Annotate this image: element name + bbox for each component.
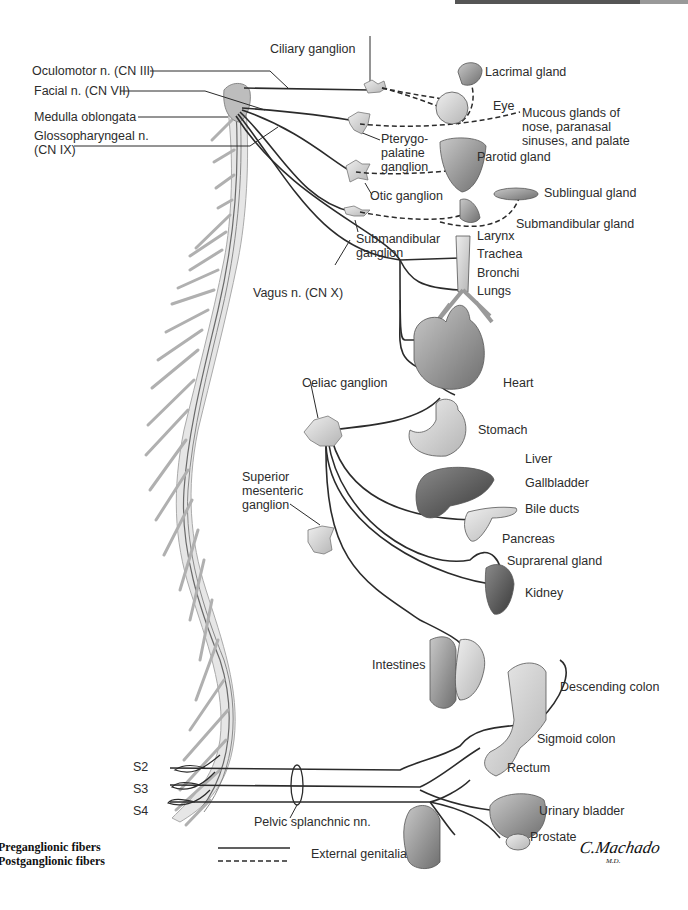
label-superior-mesenteric-ganglion: Superior mesenteric ganglion [242,470,303,512]
kidney-icon [485,565,514,615]
label-trachea: Trachea [477,247,522,261]
stomach-icon [409,399,466,456]
submandibular-gland-icon [460,199,480,222]
celiac-ganglion-icon [304,416,342,446]
label-eye: Eye [493,99,515,113]
label-larynx: Larynx [477,229,515,243]
label-vagus-nerve: Vagus n. (CN X) [253,286,343,300]
label-sigmoid-colon: Sigmoid colon [537,732,616,746]
lacrimal-gland-icon [458,63,482,86]
label-bronchi: Bronchi [477,266,519,280]
ciliary-ganglion-icon [364,80,386,93]
label-suprarenal-gland: Suprarenal gland [507,554,602,568]
label-submandibular-gland: Submandibular gland [516,217,634,231]
label-stomach: Stomach [478,423,527,437]
pterygopalatine-ganglion-icon [348,112,370,134]
label-kidney: Kidney [525,586,563,600]
colon-icon [485,663,546,776]
spinal-cord [172,93,248,822]
label-prostate: Prostate [530,830,577,844]
label-s2: S2 [133,760,148,774]
superior-mesenteric-ganglion-icon [308,526,334,554]
label-medulla-oblongata: Medulla oblongata [34,110,136,124]
legend-postganglionic: Postganglionic fibers [0,855,105,868]
prostate-icon [506,834,530,850]
label-s4: S4 [133,804,148,818]
sublingual-gland-icon [494,188,538,200]
label-lungs: Lungs [477,284,511,298]
label-gallbladder: Gallbladder [525,476,589,490]
label-facial-nerve: Facial n. (CN VII) [34,84,130,98]
label-otic-ganglion: Otic ganglion [370,189,443,203]
label-lacrimal-gland: Lacrimal gland [485,65,566,79]
eye-icon [436,92,468,124]
heart-icon [414,305,484,389]
intestines-right-icon [455,639,484,700]
label-external-genitalia: External genitalia [311,847,407,861]
label-parotid-gland: Parotid gland [477,150,551,164]
label-celiac-ganglion: Celiac ganglion [302,376,387,390]
parotid-gland-icon [440,138,486,192]
legend-preganglionic: Preganglionic fibers [0,841,101,854]
label-bile-ducts: Bile ducts [525,502,579,516]
intestines-left-icon [430,637,456,708]
label-intestines: Intestines [372,658,426,672]
label-pelvic-splanchnic-nerves: Pelvic splanchnic nn. [254,815,371,829]
label-s3: S3 [133,782,148,796]
label-pterygopalatine-ganglion: Pterygo- palatine ganglion [381,132,428,174]
label-sublingual-gland: Sublingual gland [544,186,636,200]
submandibular-ganglion-icon [344,206,370,216]
label-heart: Heart [503,376,534,390]
trachea-icon [456,236,470,292]
label-descending-colon: Descending colon [560,680,659,694]
ganglia [304,80,386,554]
label-mucous-glands: Mucous glands of nose, paranasal sinuses… [522,106,630,148]
external-genitalia-icon [404,805,440,868]
label-submandibular-ganglion: Submandibular ganglion [356,232,440,260]
artist-signature-suffix: M.D. [606,857,620,865]
pelvic-splanchnic-bundle [291,765,303,805]
label-glossopharyngeal-nerve: Glossopharyngeal n. (CN IX) [34,129,149,157]
label-ciliary-ganglion: Ciliary ganglion [270,42,355,56]
otic-ganglion-icon [346,160,370,182]
label-oculomotor-nerve: Oculomotor n. (CN III) [32,64,154,78]
label-rectum: Rectum [507,761,550,775]
label-pancreas: Pancreas [502,532,555,546]
label-liver: Liver [525,452,552,466]
label-urinary-bladder: Urinary bladder [539,804,624,818]
artist-signature: C.Machado [578,838,661,858]
